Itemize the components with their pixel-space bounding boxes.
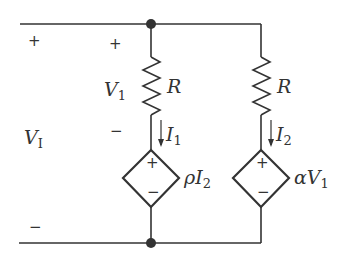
- v1-voltage-label: V1: [104, 80, 126, 102]
- i1-current-sub: 1: [174, 133, 182, 148]
- branch1-resistor-icon: [143, 57, 160, 115]
- branch1-source-plus: +: [146, 156, 159, 171]
- i1-current-label: I1: [166, 125, 182, 147]
- branch1-source-label: ρI2: [184, 168, 211, 190]
- branch2-source-minus: −: [257, 185, 270, 200]
- branch1-source-minus: −: [147, 185, 160, 200]
- v1-minus-sign: −: [110, 124, 123, 139]
- branch2-source-sub: 1: [321, 176, 329, 191]
- bottom-node-icon: [146, 238, 156, 248]
- top-node-icon: [146, 19, 156, 29]
- port-voltage-sub: I: [38, 136, 43, 151]
- branch1-source-main: ρI: [184, 166, 203, 188]
- port-plus-sign: +: [28, 34, 41, 49]
- branch1-source-sub: 2: [203, 176, 211, 191]
- branch2-source-plus: +: [256, 156, 269, 171]
- i2-current-sub: 2: [284, 133, 292, 148]
- v1-voltage-main: V: [104, 78, 118, 100]
- i2-current-main: I: [276, 123, 284, 145]
- branch1-resistor-label: R: [167, 77, 181, 96]
- port-voltage-main: V: [24, 126, 38, 148]
- branch2-resistor-label: R: [277, 77, 291, 96]
- branch2-resistor-icon: [253, 57, 270, 115]
- v1-plus-sign: +: [109, 37, 122, 52]
- i1-current-main: I: [166, 123, 174, 145]
- port-voltage-label: VI: [24, 128, 43, 150]
- branch2-source-label: αV1: [294, 168, 329, 190]
- circuit-diagram: + − VI + − V1 R R I1 I2 + − + − ρI2 αV1: [0, 0, 345, 269]
- branch2-source-main: αV: [294, 166, 321, 188]
- port-minus-sign: −: [29, 220, 42, 235]
- v1-voltage-sub: 1: [118, 88, 126, 103]
- i2-current-label: I2: [276, 125, 292, 147]
